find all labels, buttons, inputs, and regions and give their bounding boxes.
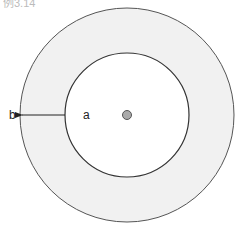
concentric-circles-diagram: b a (0, 0, 238, 228)
center-dot (123, 111, 132, 120)
label-b: b (9, 108, 16, 122)
label-a: a (83, 108, 90, 122)
